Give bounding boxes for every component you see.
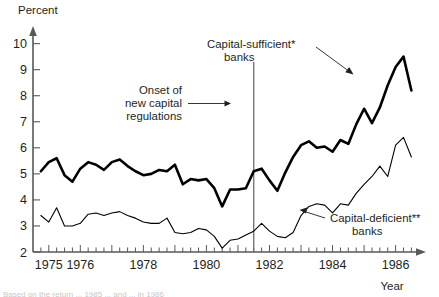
y-tick-label: 8 bbox=[20, 89, 27, 103]
x-tick-label: 1980 bbox=[193, 258, 221, 272]
annotation-sufficient-line1: Capital-sufficient* bbox=[207, 38, 296, 50]
annotation-capital-sufficient: Capital-sufficient* banks bbox=[207, 38, 354, 75]
annotation-onset-line3: regulations bbox=[126, 110, 182, 122]
chart-container: 2345678910 1975197619781980198219841986 … bbox=[0, 0, 439, 297]
y-tick-label: 3 bbox=[20, 219, 27, 233]
x-tick-label: 1978 bbox=[129, 258, 157, 272]
chart-footnote: Based on the return ... 1985 ... and ...… bbox=[3, 290, 164, 297]
y-tick-label: 6 bbox=[20, 141, 27, 155]
y-tick-label: 4 bbox=[20, 193, 27, 207]
annotation-onset-arrowhead bbox=[225, 101, 232, 107]
y-axis-tick-labels: 2345678910 bbox=[13, 37, 27, 259]
x-axis-tick-labels: 1975197619781980198219841986 bbox=[35, 258, 410, 272]
y-tick-label: 9 bbox=[20, 63, 27, 77]
annotation-onset-line1: Onset of bbox=[139, 84, 183, 96]
x-tick-label: 1986 bbox=[382, 258, 410, 272]
annotation-deficient-line1: Capital-deficient** bbox=[330, 212, 421, 224]
annotation-capital-deficient: Capital-deficient** banks bbox=[300, 207, 422, 237]
annotation-sufficient-leader bbox=[316, 47, 350, 72]
x-axis-title: Year bbox=[380, 280, 403, 292]
annotation-onset: Onset of new capital regulations bbox=[125, 84, 231, 122]
x-tick-label: 1976 bbox=[66, 258, 94, 272]
line-chart: 2345678910 1975197619781980198219841986 … bbox=[0, 0, 439, 297]
series-line-capital-sufficient bbox=[41, 57, 412, 207]
x-tick-label: 1982 bbox=[256, 258, 284, 272]
x-tick-label: 1984 bbox=[319, 258, 347, 272]
y-tick-label: 2 bbox=[20, 246, 27, 260]
y-tick-label: 5 bbox=[20, 167, 27, 181]
x-tick-label: 1975 bbox=[35, 258, 63, 272]
annotation-onset-line2: new capital bbox=[125, 97, 182, 109]
annotation-sufficient-arrowhead bbox=[345, 67, 353, 75]
y-tick-label: 10 bbox=[13, 37, 27, 51]
y-tick-label: 7 bbox=[20, 115, 27, 129]
annotation-sufficient-line2: banks bbox=[224, 51, 255, 63]
annotation-deficient-line2: banks bbox=[352, 225, 383, 237]
y-axis-title: Percent bbox=[18, 4, 58, 16]
